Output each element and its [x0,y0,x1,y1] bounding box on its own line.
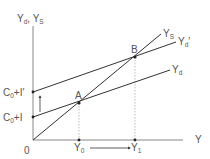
ys-line [33,34,161,140]
intercept-label-c0-i: C0+I [3,112,22,124]
y-axis-label: Yd, YS [17,13,44,25]
intercept-dot-1 [32,116,35,119]
point-a-dot [77,101,80,104]
intercept-dot-2 [32,91,35,94]
tick-label-y0: Y0 [74,142,85,154]
yd-label: Yd [172,64,183,76]
origin-label: 0 [24,145,30,156]
keynesian-cross-diagram: Yd, YS Y 0 C0+I C0+I′ YS Yd′ Yd A B Y0 Y… [0,0,210,159]
intercept-label-c0-i-prime: C0+I′ [3,87,24,99]
tick-label-y1: Y1 [131,142,142,154]
point-b-dot [133,55,136,58]
tick-dot-y0 [78,139,81,142]
x-axis-label: Y [195,134,202,145]
yd-prime-label: Yd′ [178,36,190,48]
ys-label: YS [163,28,175,40]
tick-dot-y1 [134,139,137,142]
yd-prime-line [33,42,176,92]
yd-line [33,70,170,117]
point-a-label: A [75,90,82,101]
point-b-label: B [131,44,138,55]
